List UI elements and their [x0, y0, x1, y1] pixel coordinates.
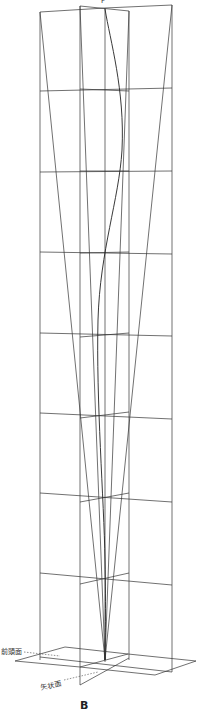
frontal-plane-label: 前頭面: [1, 646, 22, 656]
figure-label: B: [80, 699, 88, 712]
sagittal-leader: [64, 672, 98, 680]
planes-diagram: [0, 0, 202, 718]
frontal-frame: [40, 5, 172, 672]
converging-lines: [40, 5, 172, 660]
frontal-leader: [24, 652, 60, 656]
horizontal-bands: [40, 88, 172, 585]
top-label: F: [101, 0, 105, 5]
